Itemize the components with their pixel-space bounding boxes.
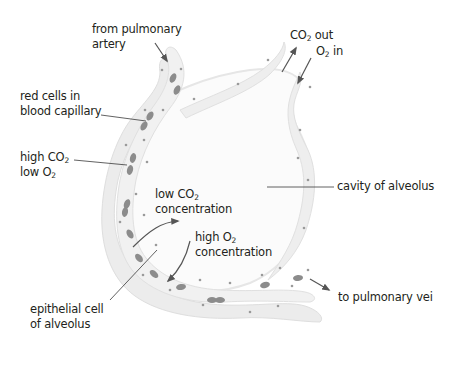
label-o2-in: O2 in — [316, 44, 343, 59]
label-to-pulmonary-vein: to pulmonary vei — [338, 290, 433, 305]
label-low-co2-concentration: low CO2 concentration — [155, 187, 232, 216]
label-line: artery — [92, 37, 182, 52]
label-line: blood capillary — [20, 104, 101, 119]
label-high-o2-concentration: high O2 concentration — [195, 230, 272, 259]
label-red-cells: red cells in blood capillary — [20, 89, 101, 118]
label-from-pulmonary-artery: from pulmonary artery — [92, 22, 182, 51]
label-low-o2: low O2 — [20, 165, 69, 180]
label-epithelial-cell: epithelial cell of alveolus — [30, 302, 104, 331]
label-line: red cells in — [20, 89, 101, 104]
label-high-co2-low-o2: high CO2 low O2 — [20, 150, 69, 179]
label-line: from pulmonary — [92, 22, 182, 37]
arrow-o2-in — [298, 58, 311, 83]
arrow-to-vein — [310, 279, 329, 290]
alveolus-diagram: from pulmonary artery red cells in blood… — [0, 0, 457, 366]
label-co2-out: CO2 out — [290, 28, 333, 43]
label-high-co2: high CO2 — [20, 150, 69, 165]
label-cavity-of-alveolus: cavity of alveolus — [337, 179, 434, 194]
